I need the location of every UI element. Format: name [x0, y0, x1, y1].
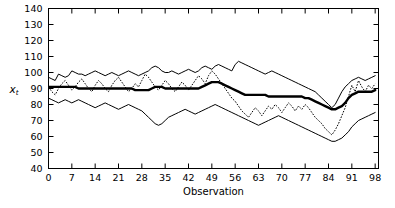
y-tick-label-90: 90 [30, 83, 42, 94]
x-axis-title: Observation [183, 186, 244, 197]
y-tick-label-70: 70 [30, 115, 42, 126]
x-tick-label-49: 49 [206, 172, 218, 183]
x-tick-label-56: 56 [229, 172, 241, 183]
y-tick-label-40: 40 [30, 163, 42, 174]
x-tick-label-70: 70 [276, 172, 288, 183]
y-tick-label-80: 80 [30, 99, 42, 110]
series-center-forecast [49, 82, 376, 109]
series-lower-bound [49, 98, 376, 141]
x-tick-label-35: 35 [159, 172, 171, 183]
y-axis-title: xt [9, 83, 19, 98]
y-tick-label-140: 140 [24, 3, 42, 14]
x-tick-label-14: 14 [89, 172, 101, 183]
x-tick-label-84: 84 [322, 172, 334, 183]
x-tick-label-42: 42 [182, 172, 194, 183]
series-upper-bound [49, 61, 376, 107]
x-tick-label-7: 7 [69, 172, 75, 183]
x-tick-label-98: 98 [369, 172, 381, 183]
x-tick-label-28: 28 [136, 172, 148, 183]
x-tick-label-0: 0 [45, 172, 51, 183]
x-tick-label-63: 63 [252, 172, 264, 183]
y-tick-label-50: 50 [30, 147, 42, 158]
x-tick-label-91: 91 [346, 172, 358, 183]
y-tick-label-100: 100 [24, 67, 42, 78]
y-tick-label-110: 110 [24, 51, 42, 62]
y-tick-label-130: 130 [24, 19, 42, 30]
time-series-chart: 4050607080901001101201301400714212835424… [0, 0, 395, 208]
y-tick-label-120: 120 [24, 35, 42, 46]
x-tick-label-77: 77 [299, 172, 311, 183]
x-tick-label-21: 21 [112, 172, 124, 183]
y-tick-label-60: 60 [30, 131, 42, 142]
chart-figure: 4050607080901001101201301400714212835424… [0, 0, 395, 208]
y-axis-title-sub: t [16, 89, 19, 97]
